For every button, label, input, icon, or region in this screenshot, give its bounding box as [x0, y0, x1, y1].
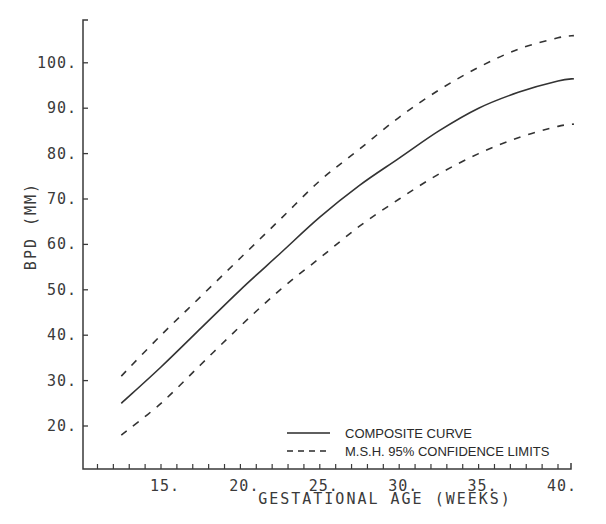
y-tick-label: 50.: [47, 281, 77, 299]
axes: 20.30.40.50.60.70.80.90.100.15.20.25.30.…: [37, 20, 577, 495]
legend-label-composite: COMPOSITE CURVE: [345, 426, 472, 441]
curves: [121, 36, 574, 436]
y-tick-label: 90.: [47, 99, 77, 117]
y-tick-label: 20.: [47, 417, 77, 435]
x-tick-label: 20.: [229, 477, 259, 495]
y-axis-title: BPD (MM): [22, 182, 40, 270]
y-tick-label: 40.: [47, 326, 77, 344]
legend: COMPOSITE CURVE M.S.H. 95% CONFIDENCE LI…: [287, 426, 550, 459]
y-tick-label: 70.: [47, 190, 77, 208]
y-tick-label: 30.: [47, 372, 77, 390]
axis-lines: [83, 20, 571, 469]
y-tick-label: 100.: [37, 54, 77, 72]
composite-curve: [121, 79, 574, 404]
x-tick-label: 15.: [150, 477, 180, 495]
x-axis-title: GESTATIONAL AGE (WEEKS): [258, 490, 512, 508]
upper-confidence-limit: [121, 36, 574, 377]
bpd-growth-chart: 20.30.40.50.60.70.80.90.100.15.20.25.30.…: [0, 0, 606, 524]
legend-label-confidence: M.S.H. 95% CONFIDENCE LIMITS: [345, 444, 550, 459]
x-tick-label: 40.: [547, 477, 577, 495]
y-tick-label: 60.: [47, 235, 77, 253]
lower-confidence-limit: [121, 124, 574, 435]
y-tick-label: 80.: [47, 145, 77, 163]
